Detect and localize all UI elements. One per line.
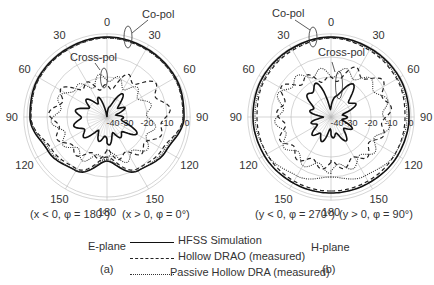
- angle-tick-label: 150: [274, 193, 292, 205]
- e-plane-left-half-label: (x < 0, φ = 180°): [30, 208, 110, 220]
- h-plane-left-half-label: (y < 0, φ = 270°): [255, 208, 335, 220]
- angle-tick-label: 90: [230, 111, 242, 123]
- angle-tick-label: 120: [239, 159, 257, 171]
- angle-tick-label: 150: [50, 193, 68, 205]
- e-plane-right-half-label: (x > 0, φ = 0°): [122, 208, 190, 220]
- co-pol-annotation: Co-pol: [272, 7, 304, 19]
- angle-tick-label: 30: [372, 29, 384, 41]
- cross-pol-annotation: Cross-pol: [318, 46, 365, 58]
- panel-a-label: (a): [100, 263, 113, 275]
- radial-tick-label: -20: [364, 118, 377, 128]
- angle-tick-label: 120: [404, 159, 422, 171]
- cross-pol-arrow: [332, 62, 335, 72]
- radial-tick-label: -10: [160, 118, 173, 128]
- legend-dotted-line: [130, 274, 174, 275]
- cross-pol-annotation: Cross-pol: [70, 51, 117, 63]
- radial-tick-label: -10: [384, 118, 397, 128]
- co-pol-annotation: Co-pol: [142, 8, 174, 20]
- co-pol-marker-ellipse: [309, 27, 317, 47]
- grid-spoke: [65, 117, 107, 189]
- angle-tick-label: 30: [148, 29, 160, 41]
- co-pol-arrow: [132, 20, 148, 33]
- legend-dashed-line: [130, 258, 174, 259]
- angle-tick-label: 120: [15, 159, 33, 171]
- angle-tick-label: 30: [277, 29, 289, 41]
- grid-spoke: [35, 117, 107, 159]
- h-plane-right-half-label: (y > 0, φ = 90°): [339, 208, 413, 220]
- cross-pol-arrow: [95, 63, 100, 70]
- cross-pol-curve: [307, 83, 356, 142]
- radial-tick-label: -40: [106, 118, 119, 128]
- grid-spoke: [35, 75, 107, 117]
- angle-tick-label: 90: [196, 111, 208, 123]
- angle-tick-label: 60: [183, 63, 195, 75]
- angle-tick-label: 30: [53, 29, 65, 41]
- polar-plot-e-plane: 0306090120150180150120906030-40-30-20-10…: [6, 16, 209, 218]
- angle-tick-label: 90: [420, 111, 432, 123]
- angle-tick-label: 60: [18, 63, 30, 75]
- angle-tick-label: 60: [242, 63, 254, 75]
- legend-label-hfss: HFSS Simulation: [178, 234, 262, 246]
- radial-tick-label: -20: [140, 118, 153, 128]
- angle-tick-label: 60: [407, 63, 419, 75]
- radial-tick-label: 0: [184, 118, 189, 128]
- angle-tick-label: 150: [145, 193, 163, 205]
- angle-tick-label: 120: [180, 159, 198, 171]
- co-pol-arrow: [295, 20, 310, 30]
- e-plane-label: E-plane: [88, 240, 126, 252]
- angle-tick-label: 0: [104, 16, 110, 28]
- grid-spoke: [331, 75, 403, 117]
- grid-spoke: [289, 117, 331, 189]
- legend-label-passive: Passive Hollow DRA (measured): [170, 266, 330, 278]
- angle-tick-label: 150: [369, 193, 387, 205]
- legend-label-drao: Hollow DRAO (measured): [178, 250, 305, 262]
- angle-tick-label: 90: [6, 111, 18, 123]
- h-plane-label: H-plane: [311, 241, 350, 253]
- legend-solid-line: [130, 242, 174, 243]
- angle-tick-label: 0: [328, 16, 334, 28]
